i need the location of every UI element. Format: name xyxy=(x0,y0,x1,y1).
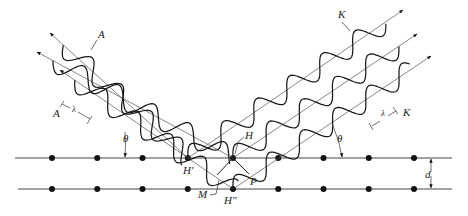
atom xyxy=(321,186,327,192)
incident-label-a-leader xyxy=(91,40,97,50)
beam-rays xyxy=(37,10,431,189)
point-label-h-double-prime: H" xyxy=(223,194,237,206)
wavelength-tick-right-a xyxy=(369,123,373,130)
point-label-h: H xyxy=(244,129,254,141)
incident-wave xyxy=(53,61,230,164)
atom xyxy=(94,186,100,192)
segment-h-m xyxy=(217,158,233,175)
point-label-m-leader xyxy=(210,180,219,195)
wavelength-tick-left-a xyxy=(60,101,64,107)
atom xyxy=(49,155,55,161)
point-label-h-prime: H' xyxy=(182,164,194,176)
diffracted-label-k-leader xyxy=(342,22,350,31)
atom xyxy=(185,186,191,192)
atom xyxy=(275,186,281,192)
atom xyxy=(49,186,55,192)
atom xyxy=(94,155,100,161)
incident-label-a: A xyxy=(97,28,105,40)
point-label-m: M xyxy=(197,188,208,200)
point-label-p: P xyxy=(249,175,257,187)
angle-theta-left: θ xyxy=(123,132,129,144)
wavelength-span-left xyxy=(62,104,90,119)
wavelength-marker-a-label: A xyxy=(52,107,60,119)
atom xyxy=(411,186,417,192)
incident-ray xyxy=(37,52,233,158)
diffracted-label-k: K xyxy=(337,8,346,20)
atom xyxy=(140,155,146,161)
diffracted-ray xyxy=(188,10,403,158)
atom xyxy=(140,186,146,192)
atom xyxy=(366,155,372,161)
spacing-label-d: d xyxy=(425,168,431,180)
bragg-diagram: A K A λ K λ θ θ d H' H H" M P xyxy=(0,0,468,216)
wavelength-marker-k-label: K xyxy=(402,106,411,118)
wavelength-symbol-left: λ xyxy=(71,104,76,114)
atom xyxy=(366,186,372,192)
atom xyxy=(321,155,327,161)
segment-h-p xyxy=(233,158,249,174)
diffracted-wave xyxy=(233,63,410,189)
wavelength-tick-right-b xyxy=(393,107,398,114)
wavelength-tick-left-b xyxy=(87,116,92,124)
wavelength-symbol-right: λ xyxy=(380,108,385,118)
incident-wave xyxy=(62,45,183,165)
angle-arc-left xyxy=(125,132,126,157)
atom xyxy=(411,155,417,161)
incident-wave xyxy=(75,80,239,185)
